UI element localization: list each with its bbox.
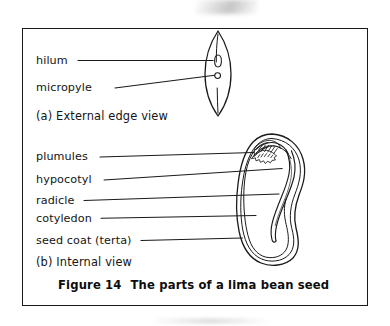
scan-artifact-bottom [150,318,270,324]
label-plumules: plumules [36,151,88,162]
figure-caption: Figure 14The parts of a lima bean seed [58,280,329,292]
scan-artifact-top [196,0,258,14]
figure-caption-number: Figure 14 [58,278,122,292]
figure-caption-text: The parts of a lima bean seed [131,278,330,292]
section-label-b: (b) Internal view [36,257,132,268]
label-micropyle: micropyle [36,82,92,93]
label-cotyledon: cotyledon [36,213,92,224]
section-label-a: (a) External edge view [36,111,168,122]
label-hilum: hilum [36,55,68,66]
label-radicle: radicle [36,195,75,206]
label-hypocotyl: hypocotyl [36,174,92,185]
label-seed-coat: seed coat (terta) [36,235,132,246]
